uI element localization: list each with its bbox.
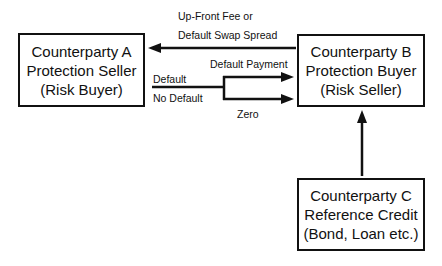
counterparty-b-role: Protection Buyer <box>306 61 417 80</box>
zero-label: Zero <box>237 108 259 120</box>
counterparty-a-risk: (Risk Buyer) <box>40 80 123 99</box>
fee-arrow <box>148 43 296 53</box>
fee-label-line1: Up-Front Fee or <box>178 10 253 22</box>
reference-arrow <box>357 110 367 176</box>
no-default-condition-label: No Default <box>153 92 203 104</box>
counterparty-c-title: Counterparty C <box>310 186 412 205</box>
counterparty-a-box: Counterparty A Protection Seller (Risk B… <box>18 33 145 107</box>
counterparty-b-risk: (Risk Seller) <box>320 80 402 99</box>
counterparty-a-title: Counterparty A <box>31 42 131 61</box>
counterparty-c-box: Counterparty C Reference Credit (Bond, L… <box>297 178 425 251</box>
fee-label-line2: Default Swap Spread <box>178 29 277 41</box>
default-payment-label: Default Payment <box>210 58 288 70</box>
counterparty-c-role: Reference Credit <box>304 205 417 224</box>
default-condition-label: Default <box>153 73 186 85</box>
counterparty-c-detail: (Bond, Loan etc.) <box>303 224 418 243</box>
counterparty-a-role: Protection Seller <box>26 61 136 80</box>
counterparty-b-box: Counterparty B Protection Buyer (Risk Se… <box>297 34 425 107</box>
counterparty-b-title: Counterparty B <box>311 42 412 61</box>
